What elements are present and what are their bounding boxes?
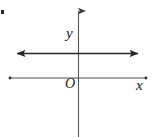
axes-canvas <box>0 0 153 137</box>
x-axis-left-endpoint-dot <box>9 77 12 80</box>
x-axis-label: x <box>136 78 143 93</box>
y-axis-label: y <box>66 26 73 41</box>
coordinate-axes-figure: y O x <box>0 0 153 137</box>
origin-label: O <box>65 77 75 91</box>
corner-mark-icon <box>1 10 4 14</box>
x-axis-right-endpoint-dot <box>145 77 148 80</box>
